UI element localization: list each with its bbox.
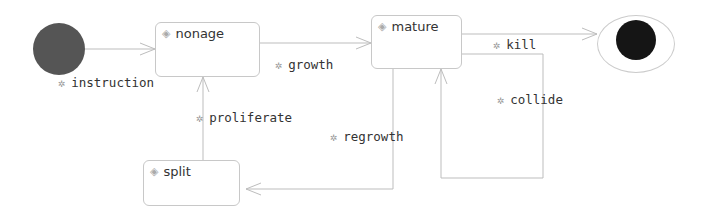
transition-instruction[interactable]: ✲instruction bbox=[58, 75, 154, 90]
state-label: nonage bbox=[175, 26, 224, 41]
transition-growth[interactable]: ✲growth bbox=[275, 57, 333, 72]
initial-state[interactable] bbox=[33, 23, 85, 75]
state-mature[interactable]: ◈mature bbox=[371, 15, 462, 69]
state-split[interactable]: ◈split bbox=[143, 160, 240, 206]
event-gear-icon: ✲ bbox=[196, 111, 203, 125]
event-gear-icon: ✲ bbox=[58, 76, 65, 90]
state-nonage[interactable]: ◈nonage bbox=[155, 22, 260, 77]
final-state-dot bbox=[616, 20, 656, 60]
state-diamond-icon: ◈ bbox=[378, 20, 386, 33]
state-diagram: ◈nonage ◈mature ◈split ✲instruction ✲gro… bbox=[0, 0, 707, 218]
event-gear-icon: ✲ bbox=[497, 93, 504, 107]
state-label: mature bbox=[391, 19, 438, 34]
transition-collide[interactable]: ✲collide bbox=[497, 92, 563, 107]
transition-kill[interactable]: ✲kill bbox=[493, 37, 536, 52]
state-diamond-icon: ◈ bbox=[162, 27, 170, 40]
event-gear-icon: ✲ bbox=[493, 38, 500, 52]
transition-regrowth[interactable]: ✲regrowth bbox=[330, 129, 403, 144]
state-label: split bbox=[163, 164, 190, 179]
state-diamond-icon: ◈ bbox=[150, 165, 158, 178]
transition-proliferate[interactable]: ✲proliferate bbox=[196, 110, 292, 125]
event-gear-icon: ✲ bbox=[275, 58, 282, 72]
event-gear-icon: ✲ bbox=[330, 130, 337, 144]
